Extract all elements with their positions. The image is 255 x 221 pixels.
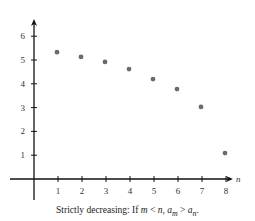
- y-tick-label: 4: [21, 79, 26, 89]
- x-axis-label: n: [236, 174, 241, 184]
- axes: n12345678123456: [10, 19, 241, 200]
- data-point: [223, 151, 228, 156]
- data-point: [55, 50, 60, 55]
- chart-caption: Strictly decreasing: If m < n, am > an.: [0, 205, 255, 218]
- caption-prefix: Strictly decreasing: If: [56, 205, 141, 215]
- x-tick-label: 3: [104, 186, 109, 196]
- data-point: [79, 55, 84, 60]
- x-tick-label: 2: [80, 186, 85, 196]
- sequence-scatter-chart: n12345678123456: [0, 0, 255, 221]
- caption-lt: <: [148, 205, 158, 215]
- data-point: [151, 77, 156, 82]
- x-tick-label: 6: [176, 186, 181, 196]
- data-points: [55, 50, 228, 156]
- caption-end: .: [197, 205, 199, 215]
- y-tick-label: 6: [21, 31, 26, 41]
- x-tick-label: 4: [128, 186, 133, 196]
- y-tick-label: 2: [21, 126, 26, 136]
- data-point: [199, 104, 204, 109]
- data-point: [175, 87, 180, 92]
- x-tick-label: 8: [224, 186, 229, 196]
- x-tick-label: 7: [200, 186, 205, 196]
- caption-gt: >: [178, 205, 188, 215]
- y-tick-label: 1: [21, 150, 26, 160]
- data-point: [103, 60, 108, 65]
- x-tick-label: 5: [152, 186, 157, 196]
- caption-var-m: m: [141, 205, 148, 215]
- y-tick-label: 3: [21, 103, 26, 113]
- data-point: [127, 67, 132, 72]
- x-tick-label: 1: [56, 186, 61, 196]
- y-tick-label: 5: [21, 55, 26, 65]
